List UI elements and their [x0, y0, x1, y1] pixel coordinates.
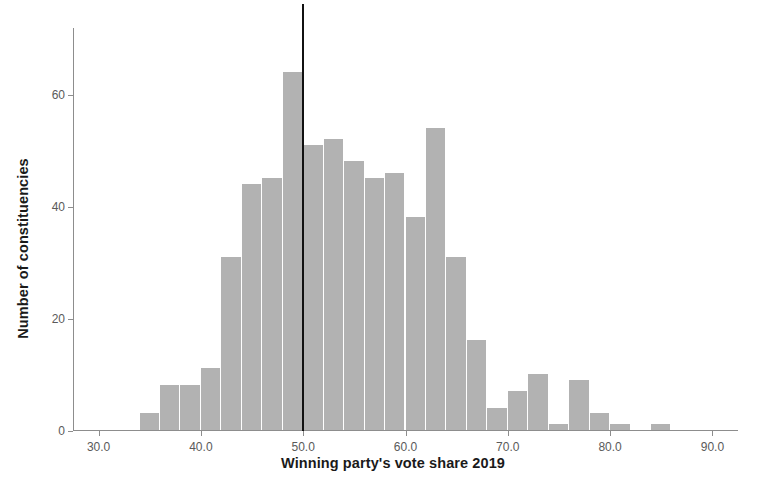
histogram-bar: [549, 424, 569, 430]
y-axis-line: [73, 28, 74, 431]
x-tick-label: 80.0: [598, 440, 621, 454]
histogram-bar: [262, 178, 282, 430]
histogram-bar: [467, 340, 487, 430]
histogram-bar: [140, 413, 160, 430]
x-tick-mark: [508, 431, 509, 436]
histogram-figure: Number of constituencies 0204060 30.040.…: [0, 0, 758, 497]
histogram-bar: [160, 385, 180, 430]
y-tick-label: 0: [58, 424, 65, 438]
histogram-bar: [487, 408, 507, 430]
histogram-bar: [344, 161, 364, 430]
histogram-bar: [508, 391, 528, 430]
histogram-bar: [590, 413, 610, 430]
histogram-bar: [651, 424, 671, 430]
x-tick-label: 90.0: [701, 440, 724, 454]
x-tick-label: 40.0: [189, 440, 212, 454]
x-tick-mark: [303, 431, 304, 436]
x-tick-mark: [99, 431, 100, 436]
y-tick-mark: [68, 95, 73, 96]
y-tick-mark: [68, 431, 73, 432]
plot-area: 0204060 30.040.050.060.070.080.090.0: [73, 28, 738, 431]
y-tick-mark: [68, 319, 73, 320]
histogram-bar: [426, 128, 446, 430]
x-tick-label: 30.0: [87, 440, 110, 454]
x-tick-mark: [610, 431, 611, 436]
histogram-bar: [406, 217, 426, 430]
histogram-bar: [324, 139, 344, 430]
x-tick-mark: [201, 431, 202, 436]
x-axis-title: Winning party's vote share 2019: [93, 455, 693, 471]
x-tick-label: 70.0: [496, 440, 519, 454]
histogram-bar: [610, 424, 630, 430]
x-tick-mark: [712, 431, 713, 436]
y-tick-label: 60: [52, 88, 65, 102]
y-tick-mark: [68, 207, 73, 208]
histogram-bar: [242, 184, 262, 430]
x-tick-mark: [406, 431, 407, 436]
y-axis-title: Number of constituencies: [0, 0, 46, 497]
histogram-bar: [180, 385, 200, 430]
histogram-bar: [221, 257, 241, 431]
histogram-bar: [365, 178, 385, 430]
histogram-bar: [385, 173, 405, 430]
x-tick-label: 60.0: [394, 440, 417, 454]
histogram-bar: [303, 145, 323, 430]
histogram-bar: [201, 368, 221, 430]
fifty-percent-reference-line: [302, 4, 304, 431]
y-tick-label: 40: [52, 200, 65, 214]
histogram-bar: [446, 257, 466, 431]
histogram-bar: [283, 72, 303, 430]
y-tick-label: 20: [52, 312, 65, 326]
histogram-bar: [569, 380, 589, 430]
x-tick-label: 50.0: [292, 440, 315, 454]
histogram-bar: [528, 374, 548, 430]
